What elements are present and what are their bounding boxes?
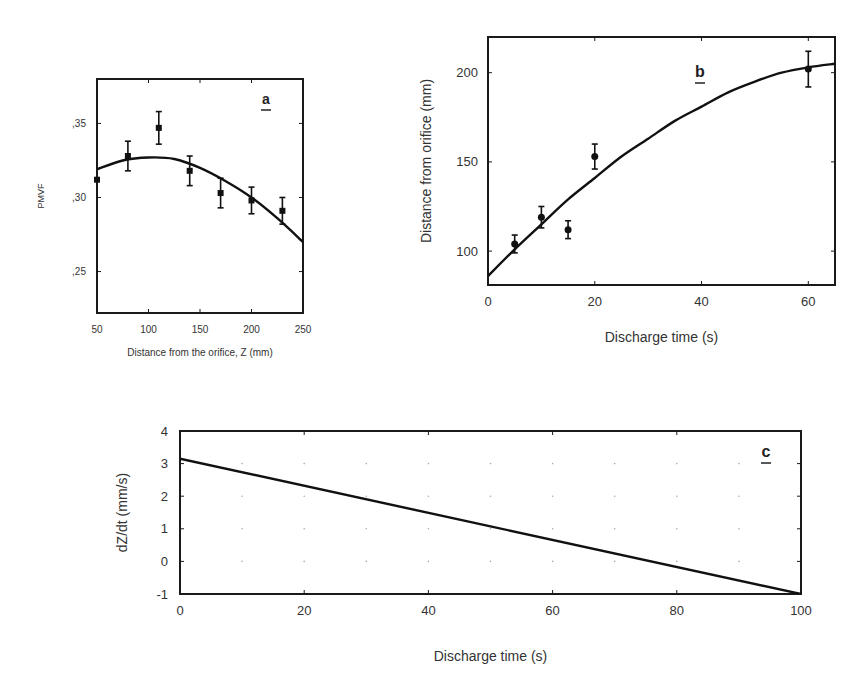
- x-tick-label: 250: [295, 324, 312, 335]
- y-axis-label: PMVF: [36, 183, 46, 209]
- data-point: [538, 214, 545, 221]
- x-tick-label: 40: [694, 294, 708, 309]
- chart-b: 0204060100150200Discharge time (s)Distan…: [418, 37, 835, 345]
- x-tick-label: 150: [192, 324, 209, 335]
- y-tick-label: 2: [161, 489, 168, 504]
- x-tick-label: 80: [670, 603, 684, 618]
- y-tick-label: 150: [456, 154, 478, 169]
- y-axis-label: dZ/dt (mm/s): [114, 473, 130, 552]
- plot-frame: [180, 431, 801, 594]
- data-point: [94, 177, 100, 183]
- x-tick-label: 20: [588, 294, 602, 309]
- data-points: [511, 51, 812, 253]
- x-tick-label: 100: [790, 603, 812, 618]
- figure: 50100150200250,25,30,35Distance from the…: [0, 0, 868, 696]
- y-tick-label: 200: [456, 65, 478, 80]
- plot-frame: [97, 79, 303, 313]
- x-tick-label: 200: [243, 324, 260, 335]
- x-axis-label: Distance from the orifice, Z (mm): [127, 347, 273, 358]
- x-axis-label: Discharge time (s): [605, 329, 719, 345]
- y-tick-label: 1: [161, 521, 168, 536]
- y-tick-label: 3: [161, 456, 168, 471]
- data-point: [591, 153, 598, 160]
- data-point: [565, 226, 572, 233]
- y-tick-label: 0: [161, 554, 168, 569]
- y-tick-label: 100: [456, 244, 478, 259]
- data-point: [187, 168, 193, 174]
- x-tick-label: 0: [484, 294, 491, 309]
- data-point: [156, 125, 162, 131]
- x-tick-label: 60: [545, 603, 559, 618]
- data-points: [94, 112, 285, 225]
- panel-label: b: [695, 63, 705, 80]
- x-tick-label: 0: [176, 603, 183, 618]
- x-tick-label: 60: [801, 294, 815, 309]
- x-axis-label: Discharge time (s): [434, 648, 548, 664]
- x-tick-label: 100: [140, 324, 157, 335]
- y-tick-label: ,35: [72, 118, 86, 129]
- chart-c: 020406080100-101234Discharge time (s)dZ/…: [114, 424, 812, 664]
- x-tick-label: 50: [91, 324, 103, 335]
- y-tick-label: ,25: [72, 266, 86, 277]
- grid-dots: [241, 463, 739, 562]
- chart-a: 50100150200250,25,30,35Distance from the…: [36, 79, 312, 358]
- y-tick-label: -1: [156, 587, 168, 602]
- data-point: [218, 190, 224, 196]
- fit-curve: [488, 64, 835, 276]
- x-tick-label: 40: [421, 603, 435, 618]
- plot-frame: [488, 37, 835, 285]
- panel-label: c: [762, 443, 771, 460]
- y-tick-label: 4: [161, 424, 168, 439]
- panel-label: a: [262, 91, 270, 107]
- y-tick-label: ,30: [72, 192, 86, 203]
- y-axis-label: Distance from orifice (mm): [418, 79, 434, 243]
- data-point: [279, 208, 285, 214]
- fit-curve: [180, 459, 801, 594]
- x-tick-label: 20: [297, 603, 311, 618]
